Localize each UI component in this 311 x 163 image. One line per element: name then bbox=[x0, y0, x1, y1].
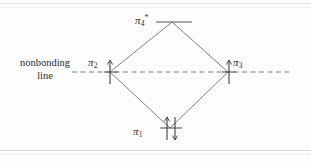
orbital-superscript-pi4: * bbox=[144, 13, 148, 22]
orbital-symbol-pi1: π bbox=[133, 125, 139, 137]
frost-edge-pi2-to-pi1 bbox=[110, 72, 170, 128]
orbital-symbol-pi2: π bbox=[88, 56, 94, 68]
frost-edge-pi4-to-pi3 bbox=[172, 22, 228, 72]
orbital-label-pi4: π4* bbox=[135, 14, 148, 28]
nonbonding-label-line-1: nonbonding bbox=[6, 57, 84, 70]
orbital-subscript-pi1: 1 bbox=[139, 130, 143, 139]
orbital-subscript-pi3: 3 bbox=[239, 61, 243, 70]
orbital-symbol-pi3: π bbox=[233, 56, 239, 68]
frost-edge-pi3-to-pi1 bbox=[170, 72, 228, 128]
orbital-subscript-pi2: 2 bbox=[94, 61, 98, 70]
mo-energy-diagram-figure: nonbonding line π4* π2 π3 π1 bbox=[0, 0, 311, 163]
nonbonding-line-label: nonbonding line bbox=[6, 57, 84, 82]
orbital-label-pi1: π1 bbox=[133, 126, 142, 139]
orbital-symbol-pi4: π bbox=[135, 14, 141, 26]
orbital-label-pi3: π3 bbox=[233, 57, 242, 70]
nonbonding-label-line-2: line bbox=[6, 70, 84, 83]
frost-edge-pi4-to-pi2 bbox=[110, 22, 172, 72]
orbital-label-pi2: π2 bbox=[88, 57, 97, 70]
